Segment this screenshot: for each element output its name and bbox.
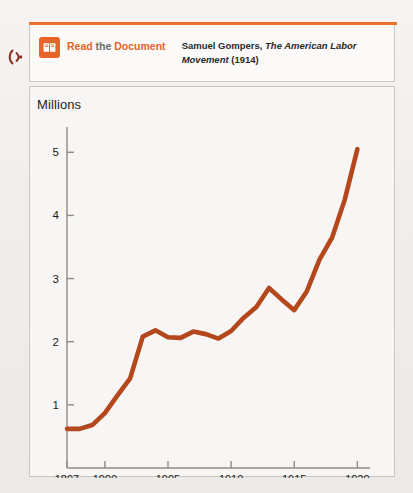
x-tick-label: 1897 [55, 473, 79, 478]
citation-year: (1914) [231, 54, 258, 65]
x-tick-label: 1915 [282, 473, 306, 478]
chart-panel: Millions 12345189719001905191019151920 [29, 86, 395, 477]
listen-audio-icon[interactable] [2, 44, 28, 70]
x-tick-label: 1905 [156, 473, 180, 478]
read-the-document-label: Read the Document [67, 40, 166, 52]
the-word: the [96, 40, 112, 52]
y-tick-label: 4 [53, 209, 60, 221]
x-tick-label: 1910 [219, 473, 243, 478]
data-line [67, 149, 357, 429]
read-the-document-callout[interactable]: Read the Document Samuel Gompers, The Am… [29, 25, 395, 82]
open-book-icon [39, 37, 60, 58]
document-citation: Samuel Gompers, The American Labor Movem… [182, 39, 386, 67]
y-tick-label: 5 [53, 146, 59, 158]
x-tick-label: 1900 [93, 473, 117, 478]
document-word: Document [114, 40, 165, 52]
x-tick-label: 1920 [345, 473, 369, 478]
y-tick-label: 2 [53, 336, 59, 348]
citation-author: Samuel Gompers, [182, 40, 263, 51]
y-tick-label: 3 [53, 273, 59, 285]
y-tick-label: 1 [53, 399, 59, 411]
read-word: Read [67, 40, 93, 52]
line-chart: 12345189719001905191019151920 [30, 87, 396, 478]
